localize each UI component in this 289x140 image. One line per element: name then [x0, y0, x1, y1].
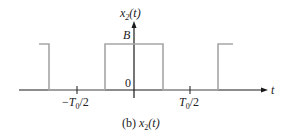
- y-axis-label: x2(t): [119, 6, 141, 22]
- figure-caption: (b) x2(t): [122, 116, 160, 132]
- square-wave-signal: [39, 44, 233, 90]
- x2-axis-arrow-icon: [132, 21, 137, 28]
- square-wave-diagram: x2(t) B 0 t −T0/2 T0/2 (b) x2(t): [0, 0, 289, 140]
- left-pulse: [39, 44, 105, 90]
- right-pulse: [218, 44, 233, 90]
- x-axis-label: t: [271, 83, 275, 97]
- origin-label: 0: [125, 76, 131, 90]
- center-pulse: [105, 44, 218, 90]
- t-axis-arrow-icon: [261, 88, 268, 93]
- tick-label-neg: −T0/2: [62, 95, 89, 111]
- level-high-label: B: [123, 28, 131, 42]
- tick-label-pos: T0/2: [179, 95, 199, 111]
